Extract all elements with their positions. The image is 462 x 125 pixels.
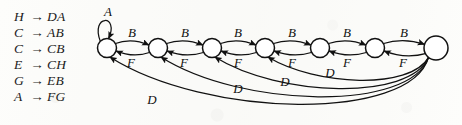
forward-edge-label: B	[343, 25, 351, 41]
forward-edge[interactable]	[220, 41, 256, 45]
forward-edge-label: B	[234, 25, 242, 41]
long-return-edge[interactable]	[215, 57, 429, 89]
graph-node[interactable]	[424, 36, 448, 60]
forward-edge[interactable]	[166, 41, 203, 45]
forward-edge[interactable]	[383, 41, 425, 45]
graph-node[interactable]	[311, 39, 330, 58]
graph-node[interactable]	[366, 39, 385, 58]
backward-edge-label: F	[288, 55, 296, 71]
forward-edge-label: B	[181, 25, 189, 41]
backward-edge-label: F	[127, 55, 135, 71]
forward-edge[interactable]	[328, 41, 366, 45]
transition-graph	[0, 0, 462, 125]
backward-edge-label: F	[180, 55, 188, 71]
graph-node[interactable]	[203, 39, 222, 58]
backward-edge-label: F	[399, 55, 407, 71]
graph-node[interactable]	[256, 39, 275, 58]
forward-edge[interactable]	[273, 41, 311, 45]
forward-edge-label: B	[128, 25, 136, 41]
backward-edge-label: F	[343, 55, 351, 71]
self-loop-label: A	[104, 4, 112, 20]
graph-node[interactable]	[98, 39, 117, 58]
nodes-group	[98, 36, 449, 60]
long-edge-label: D	[233, 81, 242, 97]
backward-edge-label: F	[234, 55, 242, 71]
graph-node[interactable]	[149, 39, 168, 58]
forward-edge-label: B	[400, 25, 408, 41]
long-edge-label: D	[280, 74, 289, 90]
long-return-edges-group	[110, 57, 429, 104]
long-return-edge[interactable]	[110, 57, 429, 104]
forward-edge-label: B	[288, 25, 296, 41]
long-edge-label: D	[325, 65, 334, 81]
forward-edge[interactable]	[115, 41, 149, 45]
long-edge-label: D	[147, 92, 156, 108]
figure-root: H → DA C → AB C → CB E → CH G → EB A → F…	[0, 0, 462, 125]
